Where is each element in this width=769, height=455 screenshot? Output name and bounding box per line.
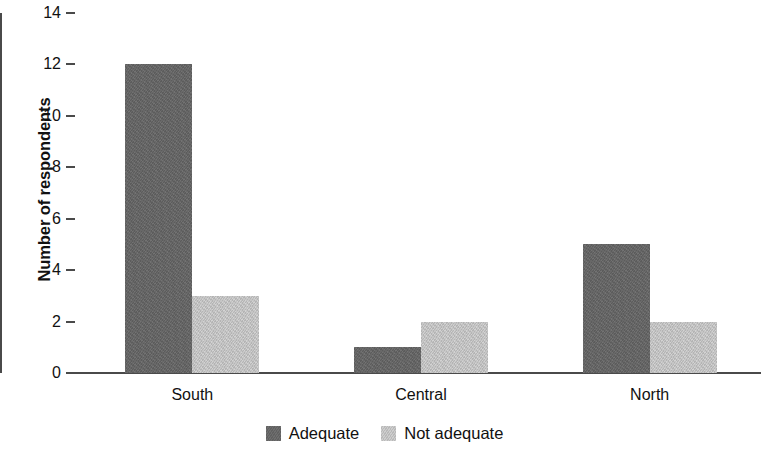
y-tick-label: 2 bbox=[52, 313, 61, 331]
legend-item-adequate[interactable]: Adequate bbox=[266, 424, 360, 443]
adequate-swatch bbox=[266, 426, 281, 441]
y-tick-label: 6 bbox=[52, 210, 61, 228]
y-tick-mark bbox=[66, 166, 75, 168]
bar-south-not-adequate bbox=[192, 296, 259, 373]
not-adequate-swatch bbox=[381, 426, 396, 441]
y-tick-label: 0 bbox=[52, 364, 61, 382]
y-axis-title: Number of respondents bbox=[35, 60, 54, 320]
y-tick-label: 4 bbox=[52, 261, 61, 279]
y-tick-label: 14 bbox=[43, 4, 61, 22]
y-tick-mark bbox=[66, 321, 75, 323]
x-axis-label-north: North bbox=[630, 386, 669, 404]
bar-south-adequate bbox=[125, 64, 192, 373]
y-tick-mark bbox=[66, 12, 75, 14]
legend-label: Adequate bbox=[289, 424, 360, 443]
y-tick-label: 8 bbox=[52, 158, 61, 176]
bar-central-not-adequate bbox=[421, 322, 488, 373]
bar-central-adequate bbox=[354, 347, 421, 373]
y-tick-mark bbox=[66, 372, 75, 374]
legend-item-not-adequate[interactable]: Not adequate bbox=[381, 424, 503, 443]
y-tick-mark bbox=[66, 218, 75, 220]
y-axis-line bbox=[0, 13, 2, 373]
bar-chart: Number of respondents 02468101214 SouthC… bbox=[0, 0, 769, 455]
plot-area: 02468101214 bbox=[75, 13, 761, 373]
y-tick-mark bbox=[66, 63, 75, 65]
y-tick-label: 12 bbox=[43, 55, 61, 73]
x-axis-label-central: Central bbox=[395, 386, 447, 404]
y-tick-mark bbox=[66, 269, 75, 271]
legend-label: Not adequate bbox=[404, 424, 503, 443]
chart-legend: AdequateNot adequate bbox=[0, 424, 769, 443]
y-tick-label: 10 bbox=[43, 107, 61, 125]
bar-north-adequate bbox=[583, 244, 650, 373]
bar-north-not-adequate bbox=[650, 322, 717, 373]
x-axis-label-south: South bbox=[171, 386, 213, 404]
y-tick-mark bbox=[66, 115, 75, 117]
